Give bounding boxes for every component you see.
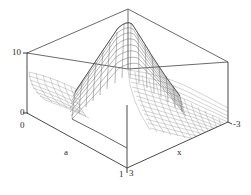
a-axis-start-label: 0 bbox=[20, 121, 25, 130]
x-axis-title: x bbox=[177, 148, 182, 157]
z-axis-zero-label: 0 bbox=[20, 108, 25, 117]
x-axis-end-label: -3 bbox=[233, 120, 241, 129]
tick-x-end bbox=[228, 122, 232, 124]
x-axis-start-label: 3 bbox=[129, 169, 134, 178]
a-axis-title: a bbox=[64, 148, 68, 157]
surface-mesh bbox=[29, 23, 228, 148]
mesh-left-fold bbox=[29, 72, 89, 118]
mesh-cols-lowsheet bbox=[128, 70, 228, 148]
z-axis-max-label: 10 bbox=[12, 48, 21, 57]
a-axis-end-label: 1 bbox=[119, 170, 124, 179]
surface-front-edge bbox=[72, 119, 127, 148]
plot-canvas bbox=[0, 0, 251, 195]
axis-box-front bbox=[27, 53, 228, 168]
surface-plot-figure: 10 0 0 1 3 -3 a x bbox=[0, 0, 251, 195]
